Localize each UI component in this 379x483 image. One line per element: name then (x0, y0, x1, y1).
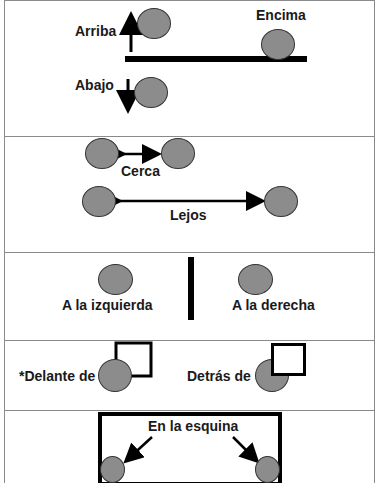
label-behind: Detrás de (187, 368, 251, 384)
ball-far-left (82, 186, 116, 217)
ball-near-left (85, 138, 119, 169)
diagram-lines (0, 0, 379, 483)
ball-left (98, 264, 133, 295)
ball-down (134, 77, 168, 108)
ball-corner-right (255, 456, 280, 483)
label-near: Cerca (121, 163, 160, 179)
behind-square (271, 343, 306, 376)
ball-on-top (261, 29, 295, 60)
vertical-divider-bar (188, 257, 194, 320)
label-left: A la izquierda (62, 297, 153, 313)
label-on-top: Encima (256, 7, 306, 23)
ball-near-right (161, 138, 195, 169)
label-down: Abajo (75, 77, 114, 93)
corner-arrow-left-icon (127, 437, 152, 460)
ball-far-right (264, 186, 298, 217)
ball-corner-left (100, 456, 125, 483)
ball-front (98, 359, 132, 392)
ball-up (137, 8, 171, 39)
label-corner: En la esquina (148, 418, 238, 434)
corner-arrow-right-icon (233, 437, 256, 460)
label-front: *Delante de (19, 368, 95, 384)
ball-right (238, 264, 273, 295)
label-right: A la derecha (232, 297, 315, 313)
label-far: Lejos (170, 207, 207, 223)
label-up: Arriba (75, 23, 116, 39)
